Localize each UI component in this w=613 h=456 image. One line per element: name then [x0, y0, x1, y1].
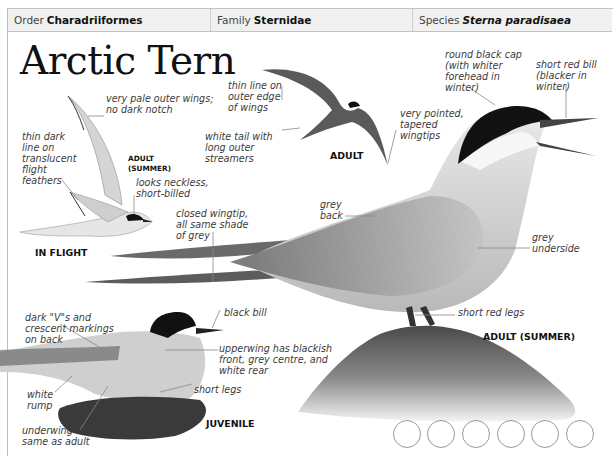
annotation-thin-dark-line: thin dark line on translucent flight fea…: [22, 131, 76, 186]
annotation-short-legs: short legs: [194, 384, 241, 395]
habitat-circle-icon: [566, 420, 594, 448]
annotation-underwing: underwing same as adult: [22, 425, 90, 447]
annotation-grey-back: grey back: [320, 199, 343, 221]
annotation-grey-underside: grey underside: [532, 232, 580, 254]
caption-adult: ADULT: [330, 150, 363, 161]
habitat-circle-icon: [462, 420, 490, 448]
annotation-round-black-cap: round black cap (with whiter forehead in…: [445, 49, 522, 93]
annotation-dark-vs: dark "V"s and crescent markings on back: [25, 312, 114, 345]
annotation-closed-wingtip: closed wingtip, all same shade of grey: [176, 208, 248, 241]
annotation-black-bill: black bill: [224, 307, 267, 318]
habitat-circle-icon: [393, 420, 421, 448]
annotation-short-red-legs: short red legs: [458, 307, 524, 318]
caption-juvenile: JUVENILE: [206, 418, 254, 429]
annotation-white-tail: white tail with long outer streamers: [205, 131, 273, 164]
annotation-looks-neckless: looks neckless, short-billed: [136, 177, 208, 199]
annotation-upperwing: upperwing has blackish front, grey centr…: [219, 343, 332, 376]
annotation-thin-line-outer-edge: thin line on outer edge of wings: [228, 80, 282, 113]
annotation-white-rump: white rump: [27, 389, 53, 411]
habitat-circle-icon: [427, 420, 455, 448]
habitat-circle-icon: [497, 420, 525, 448]
annotation-very-pointed: very pointed, tapered wingtips: [400, 108, 464, 141]
habitat-circle-icon: [531, 420, 559, 448]
caption-in-flight: IN FLIGHT: [35, 247, 87, 258]
annotation-pale-outer-wings: very pale outer wings; no dark notch: [106, 93, 213, 115]
annotation-short-red-bill: short red bill (blacker in winter): [536, 59, 597, 92]
caption-adult-summer-small: ADULT (SUMMER): [128, 154, 171, 174]
caption-adult-summer: ADULT (SUMMER): [483, 331, 575, 342]
